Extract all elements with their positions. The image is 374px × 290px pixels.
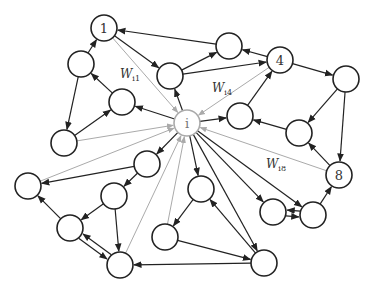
edge-c-to-i: [77, 125, 173, 141]
node-circle: [333, 66, 359, 92]
node-unlabeled: [109, 89, 135, 115]
edge-m-to-h: [134, 263, 251, 265]
node-unlabeled: [260, 199, 286, 225]
weight-label-i1: Wi1: [120, 67, 140, 83]
node-circle: [251, 250, 277, 276]
node-unlabeled: [286, 120, 312, 146]
edge-1-to-p: [115, 36, 159, 68]
nodes-layer: i148: [15, 15, 359, 278]
node-unlabeled: [57, 215, 83, 241]
edge-b-to-a: [91, 74, 112, 94]
node-8: 8: [326, 162, 352, 188]
node-circle: [101, 183, 127, 209]
edge-c-to-b: [75, 110, 111, 135]
network-diagram: i148 Wi1Wi4Wi8: [0, 0, 374, 290]
edge-n-to-l: [287, 210, 300, 211]
edge-a-to-1: [88, 40, 96, 53]
edge-i-to-p: [175, 89, 183, 111]
edge-i-to-e: [157, 132, 178, 154]
node-unlabeled: [157, 63, 183, 89]
node-circle: [51, 130, 77, 156]
edge-r-to-8: [340, 92, 345, 161]
edge-r-to-t: [308, 89, 337, 123]
node-label: 4: [276, 53, 284, 68]
node-circle: [227, 103, 253, 129]
node-circle: [216, 33, 242, 59]
edge-l-to-n: [286, 216, 299, 217]
node-circle: [134, 151, 160, 177]
node-unlabeled: [251, 250, 277, 276]
node-4: 4: [267, 47, 293, 73]
edge-4-to-q: [243, 50, 268, 57]
edge-j-to-i: [167, 137, 184, 224]
node-circle: [260, 199, 286, 225]
edge-j-to-m: [178, 240, 251, 259]
edge-n-to-8: [320, 187, 331, 204]
edge-e-to-f: [124, 173, 138, 186]
node-unlabeled: [333, 66, 359, 92]
node-circle: [109, 89, 135, 115]
node-unlabeled: [68, 51, 94, 77]
node-circle: [300, 202, 326, 228]
node-circle: [68, 51, 94, 77]
node-circle: [188, 176, 214, 202]
node-label: 8: [335, 168, 343, 183]
edge-k-to-j: [173, 199, 193, 225]
node-i: i: [174, 110, 200, 136]
node-circle: [57, 215, 83, 241]
edge-q-to-1: [118, 30, 216, 44]
edge-f-to-g: [81, 204, 103, 220]
edge-f-to-h: [115, 209, 119, 251]
node-unlabeled: [188, 176, 214, 202]
edge-i-to-b: [135, 106, 174, 119]
node-unlabeled: [152, 224, 178, 250]
edge-g-to-d: [38, 196, 61, 219]
node-unlabeled: [227, 103, 253, 129]
node-circle: [286, 120, 312, 146]
node-circle: [157, 63, 183, 89]
node-unlabeled: [51, 130, 77, 156]
node-circle: [107, 252, 133, 278]
node-circle: [152, 224, 178, 250]
weight-label-i8: Wi8: [266, 157, 286, 173]
node-1: 1: [91, 15, 117, 41]
node-label: i: [185, 116, 189, 131]
node-label: 1: [100, 21, 108, 36]
node-unlabeled: [101, 183, 127, 209]
graph-canvas: i148 Wi1Wi4Wi8: [0, 0, 374, 290]
edge-8-to-t: [309, 143, 330, 165]
edge-p-to-q: [182, 52, 217, 70]
edge-p-to-4: [183, 62, 266, 74]
edge-t-to-s: [253, 120, 286, 130]
weight-label-i4: Wi4: [212, 81, 232, 97]
node-unlabeled: [107, 252, 133, 278]
node-unlabeled: [134, 151, 160, 177]
node-unlabeled: [216, 33, 242, 59]
node-circle: [15, 173, 41, 199]
edge-4-to-r: [292, 64, 332, 76]
edge-s-to-4: [248, 71, 272, 105]
edge-m-to-k: [210, 200, 255, 253]
edge-a-to-c: [67, 77, 78, 130]
edge-i-to-s: [200, 118, 226, 121]
node-unlabeled: [15, 173, 41, 199]
node-unlabeled: [300, 202, 326, 228]
